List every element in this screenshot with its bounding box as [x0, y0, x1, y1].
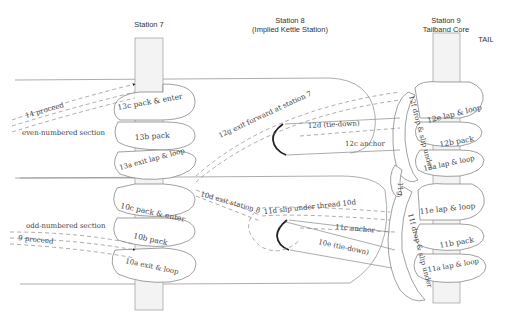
label-10e: 10e (tie-down) — [318, 238, 370, 257]
kettle-arc-lower — [277, 220, 289, 250]
header-station-7: Station 7 — [132, 20, 166, 29]
label-11c: 11c anchor — [335, 223, 376, 234]
label-10d: 10d exit station 8 — [199, 190, 261, 215]
section-bands — [15, 78, 387, 284]
tail-label: TAIL — [478, 35, 493, 44]
section-label-odd: odd-numbered section — [26, 222, 105, 230]
label-11g: 11g — [396, 182, 404, 196]
header-station-9: Station 9 Tailband Core — [418, 16, 474, 34]
knot-stitch-diagram: 14 proceed 13c pack & enter 13b pack 13a… — [0, 0, 505, 313]
label-12d: 12d (tie-down) — [308, 119, 360, 130]
section-label-even: even-numbered section — [22, 129, 105, 137]
label-14: 14 proceed — [24, 101, 65, 120]
dashed-threads — [10, 84, 400, 258]
station-8-title: Station 8 — [235, 16, 345, 25]
label-11d: 11d slip under thread 10d — [263, 198, 357, 216]
station-9-subtitle: Tailband Core — [418, 25, 474, 34]
station-8-subtitle: (Implied Kettle Station) — [235, 25, 345, 34]
header-tail: TAIL — [474, 35, 498, 44]
station-7-title: Station 7 — [134, 20, 164, 29]
kettle-arc-upper — [273, 124, 286, 155]
label-12g: 12g exit forward at station 7 — [217, 90, 312, 140]
label-9: 9 proceed — [18, 234, 55, 246]
station-9-title: Station 9 — [418, 16, 474, 25]
label-12c: 12c anchor — [345, 140, 385, 148]
diagram-canvas: 14 proceed 13c pack & enter 13b pack 13a… — [0, 0, 505, 313]
header-station-8: Station 8 (Implied Kettle Station) — [235, 16, 345, 34]
